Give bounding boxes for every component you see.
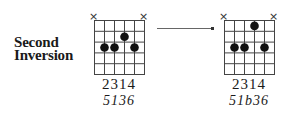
finger-dot [240,43,249,52]
finger-dot [120,32,129,41]
interval-numbers: 5136 [89,93,149,109]
fretboard-grid [94,20,144,74]
chord-diagram-before: × × 2314 5136 [89,0,149,116]
label-line-2: Inversion [14,49,73,62]
finger-dot [230,43,239,52]
finger-numbers: 2314 [89,76,149,93]
finger-dot [260,43,269,52]
chord-diagram-after: × × 2314 51b36 [219,0,279,116]
finger-dot [250,22,259,31]
arrow-right-icon [157,27,215,30]
finger-dot [100,43,109,52]
inversion-label: Second Inversion [14,36,73,62]
finger-dot [110,43,119,52]
fretboard-grid [224,20,274,74]
finger-numbers: 2314 [219,76,279,93]
finger-dot [130,43,139,52]
interval-numbers: 51b36 [219,93,279,109]
